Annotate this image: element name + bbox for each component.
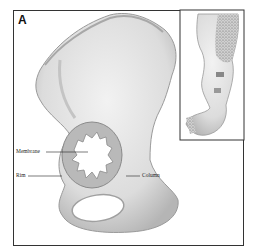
label-membrane: Membrane	[16, 148, 40, 154]
label-column: Column	[142, 172, 160, 178]
label-rim: Rim	[16, 172, 25, 178]
inset-notch-2	[214, 88, 221, 93]
pelvis-illustration	[0, 0, 259, 251]
inset-notch-1	[216, 72, 224, 77]
